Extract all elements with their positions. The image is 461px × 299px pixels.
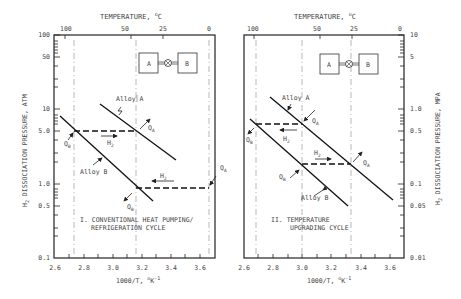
svg-text:B: B: [185, 60, 189, 68]
right-x-tick: 3.6: [384, 264, 396, 272]
left-y-axis-title: H2 DISSOCIATION PRESSURE, ATM: [21, 94, 30, 207]
right-alloy-a-label: Alloy A: [282, 94, 309, 102]
left-top-tick: 50: [121, 25, 129, 33]
right-x-tick: 3.2: [325, 264, 337, 272]
left-alloy-b-label: Alloy B: [80, 168, 107, 176]
left-qb-label-lower: QB: [127, 203, 134, 212]
right-y-tick: 0.5: [410, 127, 422, 135]
right-x-tick: 3.0: [296, 264, 308, 272]
left-qa-label-lower: QA: [220, 164, 227, 173]
left-alloy-a-label: AlloyA: [116, 95, 144, 103]
right-qa-label-upper: QA: [312, 117, 319, 126]
left-y-tick: 50: [42, 53, 50, 61]
right-x-tick: 2.8: [267, 264, 279, 272]
right-y-tick: 5: [410, 53, 414, 61]
left-arrows: [68, 107, 216, 201]
left-y-tick: 1.0: [38, 180, 50, 188]
right-top-tick: 100: [247, 25, 259, 33]
left-y-tick: 0.1: [38, 254, 50, 262]
right-alloy-b-label: Alloy B: [301, 194, 328, 202]
left-x-tick: 3.2: [136, 264, 148, 272]
figure: TEMPERATURE, oC 100 50 25 0 100 50 10 5.…: [0, 0, 461, 299]
left-y-ticks: [54, 35, 60, 236]
right-top-axis-title: TEMPERATURE, oC: [294, 11, 356, 21]
right-qa-label-lower: QA: [363, 159, 370, 168]
right-panel-caption-2: UPGRADING CYCLE: [290, 224, 349, 232]
right-y-tick: 0.05: [410, 202, 426, 210]
right-x-axis-title: 1000/T, oK-1: [307, 275, 351, 285]
right-x-tick: 3.4: [355, 264, 367, 272]
left-h2-label-lower: H2: [160, 172, 167, 181]
right-panel-caption-1: II. TEMPERATURE: [271, 216, 330, 224]
left-qa-label-upper: QA: [148, 124, 155, 133]
right-top-tick: 50: [313, 25, 321, 33]
left-y-tick: 10: [42, 105, 50, 113]
right-schematic: A B: [320, 54, 378, 74]
left-y-tick: 100: [38, 31, 50, 39]
left-panel-caption-1: I. CONVENTIONAL HEAT PUMPING/: [80, 216, 194, 224]
right-qb-label-upper: QB: [246, 136, 253, 145]
left-y-tick: 5.0: [38, 127, 50, 135]
left-h2-label-upper: H2: [107, 139, 114, 148]
right-y-tick: 0.01: [410, 254, 426, 262]
right-y-ticks: [398, 35, 404, 236]
right-y-axis-title: H2 DISSOCIATION PRESSURE, MPA: [434, 92, 443, 205]
left-x-tick: 3.6: [194, 264, 206, 272]
right-arrows: [248, 104, 362, 196]
svg-text:B: B: [366, 61, 370, 69]
right-top-tick: 0: [398, 25, 402, 33]
left-panel-caption-2: REFRIGERATION CYCLE: [91, 224, 165, 232]
svg-text:A: A: [327, 61, 331, 69]
right-qb-label-lower: QB: [279, 173, 286, 182]
left-x-tick: 3.4: [165, 264, 177, 272]
right-h2-label-upper: H2: [283, 135, 290, 144]
left-schematic: A B: [139, 53, 197, 73]
left-top-tick: 25: [159, 25, 167, 33]
left-alloy-a-line: [100, 104, 176, 160]
right-alloy-b-line: [250, 119, 348, 206]
right-y-tick: 0.1: [410, 180, 422, 188]
left-panel: TEMPERATURE, oC 100 50 25 0 100 50 10 5.…: [21, 11, 227, 285]
right-top-tick: 25: [350, 25, 358, 33]
right-panel: TEMPERATURE, oC 100 50 25 0 10 5 1.0 0.5…: [238, 11, 443, 285]
right-alloy-a-line: [270, 97, 393, 200]
left-x-tick: 3.0: [107, 264, 119, 272]
right-h2-label-lower: H2: [314, 149, 321, 158]
left-x-tick: 2.8: [78, 264, 90, 272]
left-y-tick: 0.5: [38, 202, 50, 210]
left-x-axis-title: 1000/T, oK-1: [116, 275, 160, 285]
svg-text:A: A: [147, 60, 151, 68]
right-y-tick: 10: [410, 31, 418, 39]
left-top-tick: 100: [60, 25, 72, 33]
left-top-tick: 0: [207, 25, 211, 33]
left-x-tick: 2.6: [49, 264, 61, 272]
left-top-axis-title: TEMPERATURE, oC: [100, 11, 162, 21]
right-y-tick: 1.0: [410, 105, 422, 113]
left-qb-label-upper: QB: [64, 140, 71, 149]
right-x-tick: 2.6: [238, 264, 250, 272]
